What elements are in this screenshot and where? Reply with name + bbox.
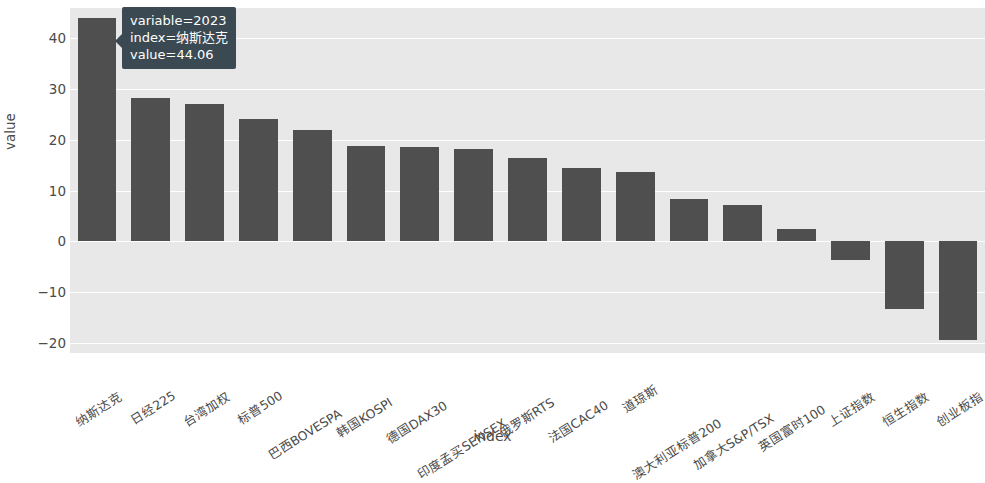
bar[interactable] [239, 119, 278, 241]
x-axis-tick: 标普500 [276, 359, 328, 402]
y-axis-tick-label: −20 [4, 335, 66, 351]
bar[interactable] [131, 98, 170, 242]
bar[interactable] [723, 205, 762, 242]
bar[interactable] [616, 172, 655, 241]
x-axis-tick: 创业板指 [976, 359, 985, 403]
bar[interactable] [670, 199, 709, 241]
tooltip-arrow-icon [115, 34, 122, 48]
bar[interactable] [185, 104, 224, 241]
bar[interactable] [78, 18, 117, 242]
bar[interactable] [293, 130, 332, 242]
bar[interactable] [508, 158, 547, 241]
bar[interactable] [831, 241, 870, 260]
y-axis-tick-label: 0 [4, 233, 66, 249]
tooltip-value-row: value=44.06 [130, 46, 228, 63]
bar[interactable] [454, 149, 493, 241]
x-axis-title: index [0, 428, 985, 444]
y-axis-tick-label: 40 [4, 30, 66, 46]
tooltip-index-row: index=纳斯达克 [130, 29, 228, 46]
bar[interactable] [777, 229, 816, 241]
bar[interactable] [885, 241, 924, 308]
hover-tooltip: variable=2023 index=纳斯达克 value=44.06 [122, 7, 236, 69]
y-axis-tick-label: 10 [4, 183, 66, 199]
bar[interactable] [562, 168, 601, 242]
x-axis-tick: 德国DAX30 [440, 359, 508, 411]
y-axis-title: value [2, 113, 18, 150]
bar[interactable] [400, 147, 439, 241]
bar[interactable] [347, 146, 386, 241]
y-axis-tick-label: −10 [4, 284, 66, 300]
x-axis-tick-label: 纳斯达克 [71, 387, 125, 431]
y-axis-tick-label: 30 [4, 81, 66, 97]
y-axis: 403020100−10−20 [0, 8, 66, 353]
x-axis: 纳斯达克日经225台湾加权标普500巴西BOVESPA韩国KOSPI德国DAX3… [70, 353, 985, 423]
tooltip-variable-row: variable=2023 [130, 12, 228, 29]
bar[interactable] [939, 241, 978, 340]
